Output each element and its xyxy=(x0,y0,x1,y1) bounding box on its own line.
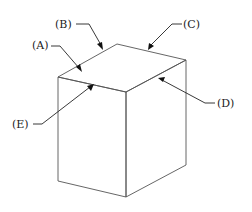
cube-top-face xyxy=(58,44,186,92)
cube-right-face xyxy=(126,60,186,197)
label-c: (C) xyxy=(183,18,200,31)
label-d: (D) xyxy=(217,97,234,110)
label-a: (A) xyxy=(32,39,49,52)
cube-left-face xyxy=(58,77,126,197)
leader-a: (A) xyxy=(32,39,82,72)
arrow-head-icon xyxy=(97,42,103,50)
leader-c: (C) xyxy=(148,18,200,50)
leader-d: (D) xyxy=(158,77,234,110)
cube-diagram: (A) (B) (C) (D) (E) xyxy=(0,0,252,212)
label-b: (B) xyxy=(55,18,72,31)
label-e: (E) xyxy=(12,118,29,131)
arrow-head-icon xyxy=(87,84,94,91)
leader-e: (E) xyxy=(12,84,94,131)
leader-b: (B) xyxy=(55,18,103,50)
arrow-head-icon xyxy=(148,43,154,50)
